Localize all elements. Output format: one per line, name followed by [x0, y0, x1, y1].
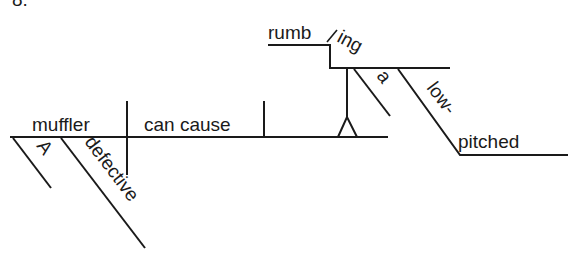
modifier-word-pitched: pitched	[458, 131, 519, 152]
modifier-word-defective: defective	[81, 132, 144, 205]
sentence-diagram: 8. muffler can cause A defective rumb in…	[0, 0, 580, 259]
gerund-suffix: ing	[334, 26, 366, 56]
problem-number: 8.	[12, 0, 28, 10]
subject-word: muffler	[32, 114, 90, 135]
verb-word: can cause	[144, 114, 231, 135]
pedestal-foot	[338, 117, 357, 137]
modifier-word-a-upper: A	[33, 136, 58, 159]
gerund-stem: rumb	[268, 22, 311, 43]
